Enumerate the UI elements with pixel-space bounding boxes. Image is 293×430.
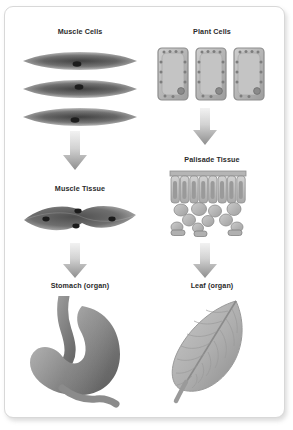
arrow-muscle-tissue-to-stomach: [62, 243, 88, 283]
muscle-cells-icon: [21, 47, 139, 129]
label-leaf-organ: Leaf (organ): [191, 281, 234, 290]
leaf-icon: [166, 297, 254, 409]
arrow-palisade-tissue-to-leaf: [192, 243, 218, 283]
label-plant-cells: Plant Cells: [193, 27, 231, 36]
stomach-icon: [20, 296, 136, 408]
plant-cells-icon: [157, 46, 265, 102]
label-stomach-organ: Stomach (organ): [51, 281, 110, 290]
label-muscle-cells: Muscle Cells: [58, 27, 103, 36]
palisade-tissue-icon: [168, 170, 248, 238]
diagram-stage: Muscle Cells: [0, 0, 293, 430]
muscle-tissue-icon: [20, 199, 140, 241]
label-palisade-tissue: Palisade Tissue: [184, 155, 239, 164]
arrow-plant-cells-to-palisade-tissue: [192, 108, 218, 150]
arrow-muscle-cells-to-muscle-tissue: [62, 131, 88, 175]
label-muscle-tissue: Muscle Tissue: [55, 184, 105, 193]
